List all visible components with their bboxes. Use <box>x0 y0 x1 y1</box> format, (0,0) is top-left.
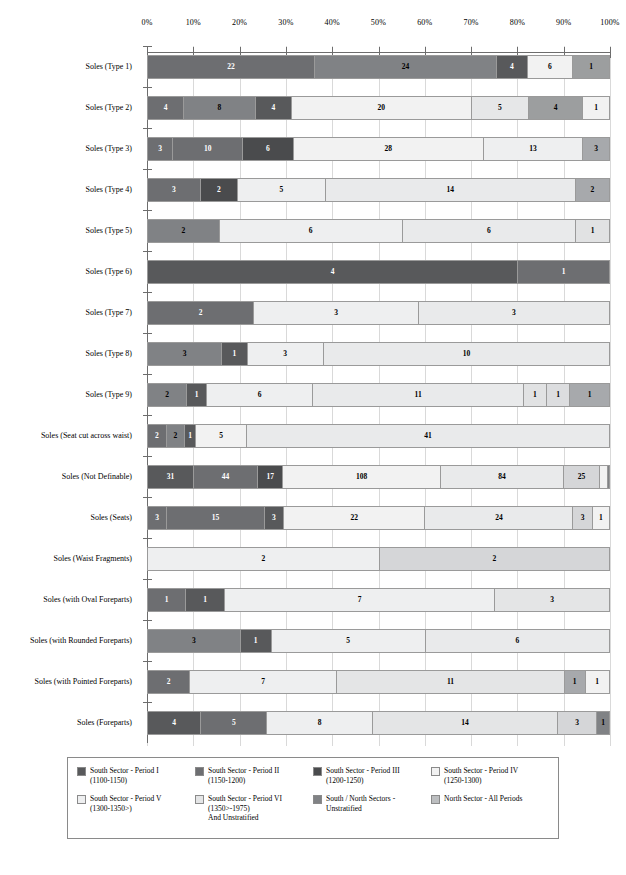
bar-segment: 1 <box>607 465 610 489</box>
legend-item[interactable]: North Sector - All Periods <box>431 794 549 823</box>
bar-segment: 1 <box>517 260 610 284</box>
legend-item[interactable]: South Sector - Period V (1300-1350>) <box>77 794 195 823</box>
bar-segment: 24 <box>424 506 572 530</box>
bar-segment: 1 <box>564 670 585 694</box>
bar-segment: 3 <box>418 301 610 325</box>
legend-swatch-icon <box>77 767 86 776</box>
category-label: Soles (with Pointed Foreparts) <box>0 661 138 702</box>
bar-segment: 1 <box>147 588 185 612</box>
bar-segment: 3 <box>582 137 610 161</box>
x-axis-tick-label: 70% <box>463 18 478 27</box>
bar-segment: 3 <box>147 342 221 366</box>
category-label: Soles (Type 8) <box>0 333 138 374</box>
segment-value-label: 6 <box>309 227 313 235</box>
segment-value-label: 5 <box>232 719 236 727</box>
chart-row: Soles (Type 8)31310 <box>0 333 626 374</box>
segment-value-label: 14 <box>447 186 455 194</box>
segment-value-label: 22 <box>350 514 358 522</box>
chart-row: Soles (Type 9)21611111 <box>0 374 626 415</box>
segment-value-label: 7 <box>261 678 265 686</box>
plot-area: Soles (Type 1)2224461Soles (Type 2)48420… <box>0 46 626 750</box>
chart-legend: South Sector - Period I (1100-1150)South… <box>67 757 559 839</box>
category-label: Soles (Foreparts) <box>0 702 138 743</box>
segment-value-label: 1 <box>595 678 599 686</box>
segment-value-label: 4 <box>510 63 514 71</box>
bar-segment: 3 <box>147 629 240 653</box>
stacked-bar: 31310 <box>147 342 610 366</box>
legend-swatch-icon <box>195 795 204 804</box>
legend-item[interactable]: South Sector - Period I (1100-1150) <box>77 766 195 785</box>
segment-value-label: 3 <box>183 350 187 358</box>
bar-segment: 8 <box>266 711 372 735</box>
stacked-bar: 22 <box>147 547 610 571</box>
x-axis-tick-label: 50% <box>371 18 386 27</box>
legend-label: South Sector - Period III (1200-1250) <box>326 766 400 785</box>
bar-segment: 3 <box>572 506 591 530</box>
segment-value-label: 1 <box>188 432 192 440</box>
stacked-bar: 221541 <box>147 424 610 448</box>
segment-value-label: 2 <box>591 186 595 194</box>
chart-row: Soles (Seats)3153222431 <box>0 497 626 538</box>
chart-row: Soles (Type 7)233 <box>0 292 626 333</box>
segment-value-label: 20 <box>378 104 386 112</box>
bar-segment: 1 <box>221 342 246 366</box>
segment-value-label: 11 <box>415 391 422 399</box>
legend-swatch-icon <box>431 767 440 776</box>
segment-value-label: 1 <box>254 637 258 645</box>
bar-segment: 1 <box>185 588 223 612</box>
bar-segment: 5 <box>599 465 606 489</box>
segment-value-label: 3 <box>581 514 585 522</box>
segment-value-label: 4 <box>331 268 335 276</box>
segment-value-label: 1 <box>601 719 605 727</box>
chart-row: Soles (Not Definable)314417108842551 <box>0 456 626 497</box>
x-axis-tick-label: 40% <box>325 18 340 27</box>
segment-value-label: 3 <box>512 309 516 317</box>
stacked-bar: 48420541 <box>147 96 610 120</box>
bar-segment: 1 <box>569 383 610 407</box>
stacked-bar-chart: 0%10%20%30%40%50%60%70%80%90%100% Soles … <box>0 0 626 875</box>
segment-value-label: 6 <box>258 391 262 399</box>
bar-segment: 4 <box>147 711 200 735</box>
bar-segment: 2 <box>379 547 611 571</box>
legend-item[interactable]: South Sector - Period III (1200-1250) <box>313 766 431 785</box>
segment-value-label: 2 <box>165 391 169 399</box>
bar-segment: 3 <box>147 506 166 530</box>
segment-value-label: 17 <box>266 473 274 481</box>
bar-segment: 5 <box>237 178 325 202</box>
segment-value-label: 2 <box>492 555 496 563</box>
legend-item[interactable]: South Sector - Period IV (1250-1300) <box>431 766 549 785</box>
stacked-bar: 314417108842551 <box>147 465 610 489</box>
category-label: Soles (Type 5) <box>0 210 138 251</box>
bar-segment: 2 <box>147 301 253 325</box>
bar-segment: 1 <box>523 383 546 407</box>
segment-value-label: 4 <box>172 719 176 727</box>
segment-value-label: 11 <box>447 678 454 686</box>
legend-item[interactable]: South Sector - Period VI (1350>-1975) An… <box>195 794 313 823</box>
segment-value-label: 2 <box>261 555 265 563</box>
x-axis-tick-label: 80% <box>510 18 525 27</box>
segment-value-label: 3 <box>192 637 196 645</box>
segment-value-label: 3 <box>272 514 276 522</box>
segment-value-label: 4 <box>164 104 168 112</box>
segment-value-label: 3 <box>172 186 176 194</box>
segment-value-label: 1 <box>165 596 169 604</box>
segment-value-label: 25 <box>578 473 586 481</box>
segment-value-label: 84 <box>498 473 506 481</box>
legend-label: South Sector - Period V (1300-1350>) <box>90 794 162 813</box>
legend-item[interactable]: South Sector - Period II (1150-1200) <box>195 766 313 785</box>
segment-value-label: 5 <box>219 432 223 440</box>
x-axis-tick-label: 100% <box>600 18 619 27</box>
bar-segment: 28 <box>293 137 483 161</box>
category-label: Soles (Type 6) <box>0 251 138 292</box>
bar-segment: 25 <box>563 465 600 489</box>
bar-segment: 15 <box>166 506 263 530</box>
segment-value-label: 2 <box>199 309 203 317</box>
stacked-bar: 271111 <box>147 670 610 694</box>
bar-segment: 4 <box>255 96 291 120</box>
legend-row-1: South Sector - Period I (1100-1150)South… <box>77 766 549 785</box>
bar-segment: 10 <box>172 137 241 161</box>
segment-value-label: 1 <box>556 391 560 399</box>
bar-segment: 6 <box>402 219 576 243</box>
legend-item[interactable]: South / North Sectors - Unstratified <box>313 794 431 823</box>
segment-value-label: 3 <box>158 145 162 153</box>
